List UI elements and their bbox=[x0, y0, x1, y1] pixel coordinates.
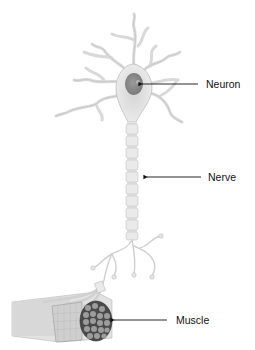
nucleus bbox=[125, 73, 143, 95]
nucleolus bbox=[136, 80, 140, 84]
nerve-label: Nerve bbox=[208, 171, 236, 183]
dendrites bbox=[56, 14, 182, 122]
muscle-bundle bbox=[12, 281, 112, 342]
muscle-label: Muscle bbox=[176, 314, 209, 326]
dendrites-outline bbox=[56, 14, 182, 122]
neuron-label: Neuron bbox=[206, 78, 240, 90]
axon bbox=[126, 122, 138, 240]
